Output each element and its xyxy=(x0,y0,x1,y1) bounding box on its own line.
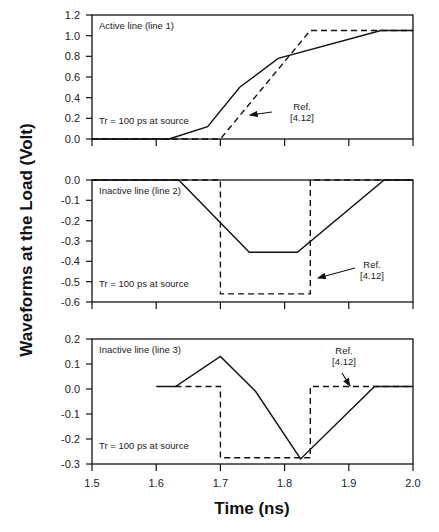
y-tick-label: -0.1 xyxy=(61,194,80,206)
y-tick-label: 1.2 xyxy=(65,9,80,21)
panel-3: 0.20.10.0-0.1-0.2-0.3Inactive line (line… xyxy=(61,333,413,471)
panel-title: Active line (line 1) xyxy=(99,20,174,31)
panel-2: 0.0-0.1-0.2-0.3-0.4-0.5-0.6Inactive line… xyxy=(61,174,413,309)
x-tick-label: 1.8 xyxy=(277,477,292,489)
x-tick-label: 2.0 xyxy=(405,477,420,489)
y-tick-label: 1.0 xyxy=(65,30,80,42)
arrow-icon xyxy=(318,268,355,278)
y-tick-label: -0.6 xyxy=(61,296,80,308)
x-tick-label: 1.9 xyxy=(341,477,356,489)
y-axis-title: Waveforms at the Load (Volt) xyxy=(17,123,36,356)
rise-time-note: Tr = 100 ps at source xyxy=(99,278,189,289)
waveform-figure: 1.21.00.80.60.40.20.0Active line (line 1… xyxy=(0,0,439,532)
y-tick-label: 0.0 xyxy=(65,174,80,186)
y-tick-label: -0.3 xyxy=(61,235,80,247)
x-tick-label: 1.6 xyxy=(149,477,164,489)
x-tick-label: 1.5 xyxy=(84,477,99,489)
y-tick-label: 0.4 xyxy=(65,92,80,104)
ref-annotation-cite: [4.12] xyxy=(360,270,384,281)
y-tick-label: 0.0 xyxy=(65,133,80,145)
y-tick-label: -0.1 xyxy=(61,408,80,420)
rise-time-note: Tr = 100 ps at source xyxy=(99,440,189,451)
ref-annotation: Ref. xyxy=(335,345,352,356)
y-tick-label: 0.2 xyxy=(65,333,80,345)
y-tick-label: 0.2 xyxy=(65,112,80,124)
ref-series-line xyxy=(176,387,414,458)
panel-title: Inactive line (line 2) xyxy=(99,185,181,196)
ref-annotation-cite: [4.12] xyxy=(332,356,356,367)
y-tick-label: -0.4 xyxy=(61,255,80,267)
ref-annotation: Ref. xyxy=(293,101,310,112)
simulated-series-line xyxy=(156,357,413,460)
y-tick-label: 0.1 xyxy=(65,358,80,370)
arrow-icon xyxy=(342,373,350,386)
y-tick-label: -0.2 xyxy=(61,433,80,445)
y-tick-label: 0.6 xyxy=(65,71,80,83)
panel-title: Inactive line (line 3) xyxy=(99,344,181,355)
rise-time-note: Tr = 100 ps at source xyxy=(99,115,189,126)
arrow-icon xyxy=(250,112,272,115)
y-tick-label: 0.8 xyxy=(65,50,80,62)
y-tick-label: -0.3 xyxy=(61,458,80,470)
x-axis-title: Time (ns) xyxy=(214,499,289,518)
y-tick-label: -0.2 xyxy=(61,215,80,227)
ref-annotation-cite: [4.12] xyxy=(290,112,314,123)
y-tick-label: 0.0 xyxy=(65,383,80,395)
x-tick-label: 1.7 xyxy=(213,477,228,489)
y-tick-label: -0.5 xyxy=(61,276,80,288)
panel-1: 1.21.00.80.60.40.20.0Active line (line 1… xyxy=(65,9,413,146)
ref-annotation: Ref. xyxy=(363,259,380,270)
